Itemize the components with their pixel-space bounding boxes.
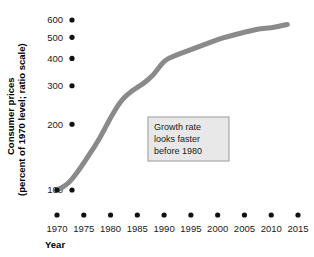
y-tick-label: 300 [47,80,63,91]
x-tick-label: 2015 [287,223,308,234]
series-start-dot [54,187,59,192]
y-tick-label: 500 [47,32,63,43]
x-tick-label: 2010 [261,223,282,234]
x-tick-label: 1995 [180,223,201,234]
x-tick-dot [269,212,274,217]
x-tick-dot [242,212,247,217]
y-axis-title-line-1: Consumer prices [5,77,16,155]
x-tick-label: 1980 [100,223,121,234]
y-tick-dot [69,56,74,61]
y-tick-dot [69,17,74,22]
x-tick-dot [81,212,86,217]
y-tick-label: 400 [47,53,63,64]
y-tick-label: 600 [47,14,63,25]
x-tick-dot [108,212,113,217]
y-tick-dot [69,83,74,88]
x-tick-dot [54,212,59,217]
annotation-line-3: before 1980 [154,146,202,156]
x-tick-dot [162,212,167,217]
x-tick-label: 1990 [154,223,175,234]
y-axis-title-line-2: (percent of 1970 level; ratio scale) [16,43,27,196]
chart-container: 600500400300200100 197019751980198519901… [0,0,314,257]
x-tick-dot [215,212,220,217]
x-tick-label: 1985 [127,223,148,234]
x-tick-dot [295,212,300,217]
consumer-prices-line-chart: 600500400300200100 197019751980198519901… [0,0,314,257]
annotation-line-1: Growth rate [154,122,201,132]
x-tick-label: 2000 [207,223,228,234]
y-tick-label: 200 [47,119,63,130]
x-tick-label: 2005 [234,223,255,234]
x-tick-label: 1970 [46,223,67,234]
y-tick-dot [69,35,74,40]
y-tick-dot [69,122,74,127]
x-tick-label: 1975 [73,223,94,234]
x-tick-dot [188,212,193,217]
annotation-line-2: looks faster [154,134,200,144]
x-tick-dot [135,212,140,217]
y-tick-dot [69,187,74,192]
x-axis-title: Year [45,239,65,250]
growth-rate-annotation: Growth rate looks faster before 1980 [148,117,229,161]
